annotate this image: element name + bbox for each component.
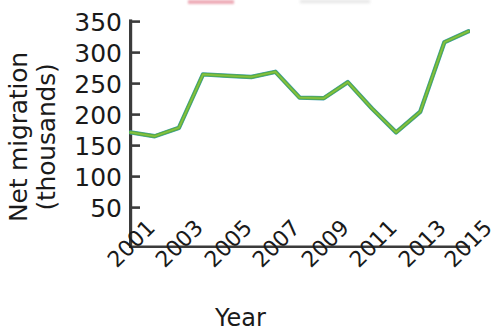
x-axis-title: Year (0, 306, 481, 330)
x-tick-label: 2015 (441, 216, 495, 271)
x-tick-label: 2007 (249, 216, 304, 271)
x-tick-label: 2001 (104, 216, 159, 271)
x-tick-label: 2009 (298, 216, 353, 271)
x-tick-label: 2011 (346, 216, 401, 271)
x-tick-label: 2013 (395, 216, 450, 271)
x-tick-label: 2003 (152, 216, 207, 271)
x-tick-label: 2005 (201, 216, 256, 271)
